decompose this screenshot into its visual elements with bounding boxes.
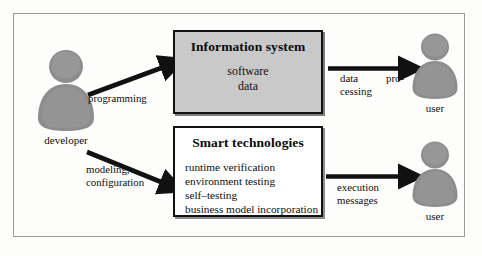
smart-technologies-contents: runtime verification environment testing…: [175, 160, 321, 216]
user-top-actor[interactable]: user: [409, 32, 461, 116]
information-system-title: Information system: [175, 39, 321, 54]
edge-label-programming: programming: [88, 92, 147, 105]
information-system-line-software: software: [175, 64, 321, 79]
information-system-contents: software data: [175, 64, 321, 93]
data-processing-word-pro: pro-: [386, 72, 404, 85]
data-processing-line-1: data pro-: [340, 72, 404, 85]
information-system-line-data: data: [175, 79, 321, 94]
information-system-box[interactable]: Information system software data: [173, 30, 323, 114]
edge-label-execution-messages: execution messages: [337, 181, 379, 206]
smart-technologies-title: Smart technologies: [175, 135, 321, 150]
smart-technologies-line-self-testing: self–testing: [185, 188, 321, 202]
user-top-label: user: [409, 102, 461, 114]
person-icon: [409, 140, 461, 210]
smart-technologies-box[interactable]: Smart technologies runtime verification …: [173, 126, 323, 217]
execution-label-line-1: execution: [337, 181, 379, 194]
developer-label: developer: [34, 134, 98, 146]
diagram-canvas: Information system software data Smart t…: [0, 0, 482, 256]
person-icon: [409, 32, 461, 102]
edge-label-data-processing: data pro- cessing: [340, 72, 404, 97]
smart-technologies-line-environment-testing: environment testing: [185, 174, 321, 188]
programming-label-line-1: programming: [88, 92, 147, 105]
smart-technologies-line-runtime-verification: runtime verification: [185, 160, 321, 174]
modeling-label-line-1: modeling,: [86, 163, 144, 176]
user-bottom-actor[interactable]: user: [409, 140, 461, 224]
modeling-label-line-2: configuration: [86, 176, 144, 189]
smart-technologies-line-business-model-incorporation: business model incorporation: [185, 202, 321, 216]
data-processing-line-2: cessing: [340, 85, 404, 98]
execution-label-line-2: messages: [337, 194, 379, 207]
data-processing-word-data: data: [340, 72, 358, 85]
user-bottom-label: user: [409, 210, 461, 222]
edge-label-modeling-configuration: modeling, configuration: [86, 163, 144, 188]
person-icon: [34, 48, 98, 134]
